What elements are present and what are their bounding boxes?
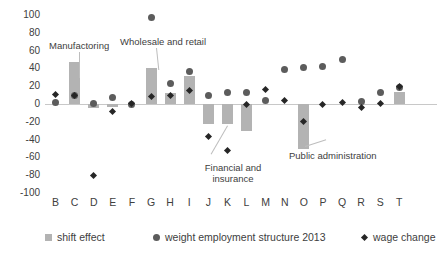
y-tick-label: -80 [6, 170, 40, 180]
y-tick-label: 60 [6, 46, 40, 56]
bar-e [107, 104, 118, 107]
weight-point-q [339, 56, 346, 63]
x-tick-label-p: P [314, 196, 332, 208]
y-tick-label: 80 [6, 28, 40, 38]
x-tick-label-r: R [352, 196, 370, 208]
x-tick-label-o: O [295, 196, 313, 208]
weight-point-e [109, 94, 116, 101]
annotation-public-administration: Public administration [289, 150, 377, 161]
weight-point-i [186, 68, 193, 75]
x-tick-label-d: D [85, 196, 103, 208]
y-tick-label: -40 [6, 135, 40, 145]
wage-point-m [262, 86, 269, 93]
y-tick-label: -20 [6, 117, 40, 127]
x-tick-label-i: I [180, 196, 198, 208]
leader-line-manufactoring [79, 52, 80, 78]
weight-point-h [167, 80, 174, 87]
y-tick-label: 20 [6, 81, 40, 91]
legend-label: wage change [373, 231, 435, 243]
x-tick-label-s: S [371, 196, 389, 208]
legend-item-wage-change: wage change [361, 231, 435, 243]
x-tick-label-t: T [390, 196, 408, 208]
wage-point-j [205, 133, 212, 140]
x-tick-label-m: M [257, 196, 275, 208]
y-tick-label: -100 [6, 188, 40, 198]
circle-marker-icon [153, 234, 160, 241]
x-tick-label-n: N [276, 196, 294, 208]
bar-o [298, 104, 309, 149]
bar-j [203, 104, 214, 124]
weight-point-k [224, 89, 231, 96]
weight-point-o [300, 64, 307, 71]
weight-point-m [262, 97, 269, 104]
x-axis: BCDEFGHIJKLMNOPQRST [45, 196, 437, 212]
x-tick-label-j: J [199, 196, 217, 208]
x-tick-label-h: H [161, 196, 179, 208]
y-tick-label: 0 [6, 99, 40, 109]
weight-point-j [205, 92, 212, 99]
annotation-label: Financial and insurance [205, 162, 262, 184]
x-tick-label-e: E [104, 196, 122, 208]
legend-item-shift-effect: shift effect [45, 231, 153, 243]
wage-point-p [319, 100, 326, 107]
x-tick-label-q: Q [333, 196, 351, 208]
wage-point-d [90, 172, 97, 179]
weight-point-p [319, 63, 326, 70]
annotation-label: Public administration [289, 150, 377, 161]
annotation-manufactoring: Manufactoring [49, 40, 109, 51]
wage-point-n [281, 97, 288, 104]
annotation-label: Manufactoring [49, 40, 109, 51]
bar-t [394, 92, 405, 104]
wage-point-r [358, 104, 365, 111]
weight-point-s [377, 89, 384, 96]
y-tick-label: 40 [6, 63, 40, 73]
wage-point-s [377, 100, 384, 107]
x-tick-label-g: G [142, 196, 160, 208]
weight-point-l [243, 89, 250, 96]
x-tick-label-l: L [238, 196, 256, 208]
y-tick-label: -60 [6, 152, 40, 162]
annotation-financial-and-insurance: Financial and insurance [202, 162, 264, 184]
legend-label: shift effect [57, 231, 105, 243]
diamond-marker-icon [361, 233, 368, 240]
x-tick-label-k: K [218, 196, 236, 208]
legend-label: weight employment structure 2013 [165, 231, 326, 243]
annotation-wholesale-and-retail: Wholesale and retail [120, 36, 206, 47]
y-axis: 100806040200-20-40-60-80-100 [4, 15, 40, 193]
weight-point-g [148, 14, 155, 21]
chart-container: 100806040200-20-40-60-80-100 BCDEFGHIJKL… [0, 0, 446, 262]
weight-point-b [52, 99, 59, 106]
wage-point-b [52, 91, 59, 98]
x-tick-label-f: F [123, 196, 141, 208]
annotation-label: Wholesale and retail [120, 36, 206, 47]
weight-point-d [90, 100, 97, 107]
weight-point-n [281, 66, 288, 73]
wage-point-k [224, 147, 231, 154]
y-tick-label: 100 [6, 10, 40, 20]
x-tick-label-c: C [66, 196, 84, 208]
square-marker-icon [45, 234, 52, 241]
chart-legend: shift effect weight employment structure… [45, 228, 437, 246]
legend-item-weight-employment-structure: weight employment structure 2013 [153, 231, 361, 243]
bar-k [222, 104, 233, 124]
x-tick-label-b: B [47, 196, 65, 208]
wage-point-e [109, 108, 116, 115]
